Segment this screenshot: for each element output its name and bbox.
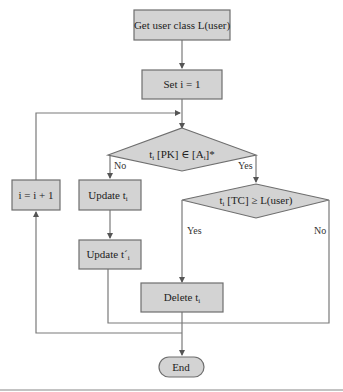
node-cond1-label: ti [PK] ∈ [Ai]* [149,148,215,162]
node-start-label: Get user class L(user) [134,19,231,32]
edge-to-increment [36,212,182,333]
edge-label-cond1-yes: Yes [238,160,253,171]
edge-label-cond2-no: No [314,225,326,236]
edge-label-cond2-yes: Yes [187,225,202,236]
node-update1-label: Update ti [88,189,128,203]
node-update1: Update ti [79,180,141,210]
node-cond2: ti [TC] ≥ L(user) [182,184,329,218]
flowchart: Get user class L(user) Set i = 1 ti [PK]… [0,0,343,392]
node-cond1: ti [PK] ∈ [Ai]* [108,128,256,171]
node-delete-label: Delete ti [164,291,201,305]
edge-label-cond1-no: No [114,160,126,171]
node-update2-label: Update t´i [86,248,129,262]
node-increment: i = i + 1 [12,180,60,210]
node-delete: Delete ti [141,283,223,312]
node-end: End [159,357,204,377]
node-update2: Update t´i [79,240,141,269]
node-init: Set i = 1 [142,70,222,99]
node-init-label: Set i = 1 [163,78,200,90]
node-cond2-label: ti [TC] ≥ L(user) [219,194,292,208]
node-increment-label: i = i + 1 [18,189,53,201]
node-end-label: End [172,361,190,373]
node-start: Get user class L(user) [134,10,231,40]
